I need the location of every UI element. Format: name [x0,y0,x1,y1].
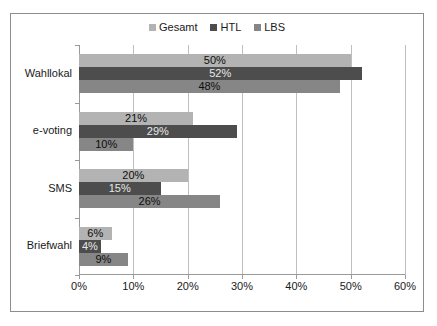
x-tick-label: 0% [71,281,87,292]
y-tick-mark [75,218,79,219]
chart-figure: GesamtHTLLBS Wahllokal50%52%48%e-voting2… [10,13,424,312]
bar-value-label: 50% [204,54,226,67]
chart-legend: GesamtHTLLBS [11,22,423,33]
bar-row: 4% [79,240,405,253]
bar-row: 20% [79,169,405,182]
bar-group-e-voting: e-voting21%29%10% [79,112,405,151]
legend-swatch-icon [254,24,261,31]
bar-value-label: 4% [82,240,98,253]
legend-item-htl[interactable]: HTL [210,22,241,33]
x-tick-label: 40% [285,281,307,292]
bar-value-label: 52% [209,67,231,80]
bar-row: 15% [79,182,405,195]
category-label: e-voting [33,125,72,136]
legend-item-label: Gesamt [159,22,198,33]
legend-swatch-icon [149,24,156,31]
x-tick-mark [405,275,406,279]
category-label: Briefwahl [27,240,72,251]
legend-item-label: LBS [264,22,285,33]
bar-row: 52% [79,67,405,80]
legend-item-gesamt[interactable]: Gesamt [149,22,198,33]
bar-value-label: 29% [147,125,169,138]
y-tick-mark [75,160,79,161]
x-tick-label: 60% [394,281,416,292]
bar-row: 48% [79,80,405,93]
bar-value-label: 6% [87,227,103,240]
x-tick-label: 10% [122,281,144,292]
category-label: Wahllokal [25,68,72,79]
bar-row: 21% [79,112,405,125]
bar-value-label: 20% [122,169,144,182]
legend-item-lbs[interactable]: LBS [254,22,285,33]
bar-value-label: 48% [198,80,220,93]
bar-group-wahllokal: Wahllokal50%52%48% [79,54,405,93]
x-tick-label: 30% [231,281,253,292]
bar-value-label: 9% [95,253,111,266]
bar-group-sms: SMS20%15%26% [79,169,405,208]
y-tick-mark [75,45,79,46]
bar-row: 6% [79,227,405,240]
bar-row: 29% [79,125,405,138]
bar-group-briefwahl: Briefwahl6%4%9% [79,227,405,266]
bar-row: 9% [79,253,405,266]
bar-value-label: 26% [139,195,161,208]
bar-value-label: 21% [125,112,147,125]
bar-row: 10% [79,138,405,151]
gridline-60pct [405,45,406,275]
category-label: SMS [48,183,72,194]
x-tick-label: 20% [177,281,199,292]
legend-item-label: HTL [220,22,241,33]
plot-box: Wahllokal50%52%48%e-voting21%29%10%SMS20… [79,45,405,275]
y-tick-mark [75,103,79,104]
x-tick-label: 50% [340,281,362,292]
bar-value-label: 10% [95,138,117,151]
x-axis-tick-labels: 0%10%20%30%40%50%60% [79,275,405,299]
bar-value-label: 15% [109,182,131,195]
bar-row: 26% [79,195,405,208]
bar-row: 50% [79,54,405,67]
legend-swatch-icon [210,24,217,31]
plot-area: Wahllokal50%52%48%e-voting21%29%10%SMS20… [79,45,414,273]
